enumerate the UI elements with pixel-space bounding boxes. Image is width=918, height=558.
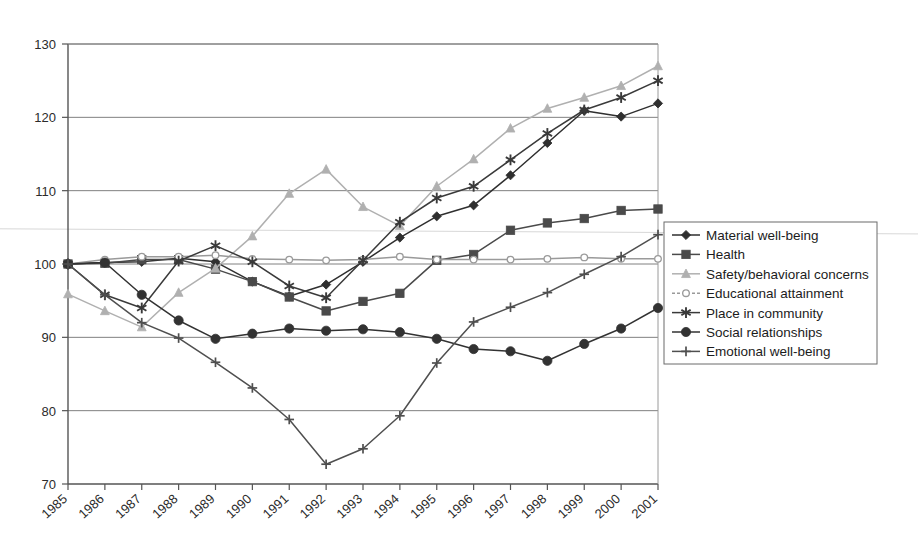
data-point-marker [507,256,514,263]
data-point-marker [248,329,257,338]
data-point-marker [322,326,331,335]
data-point-marker [323,257,330,264]
data-point-marker [655,256,662,263]
data-point-marker [580,339,589,348]
y-tick-label: 70 [42,477,56,492]
data-point-marker [359,297,367,305]
y-tick-label: 100 [34,257,56,272]
data-point-marker [396,289,404,297]
legend-item-label: Emotional well-being [706,344,831,359]
data-point-marker [248,277,256,285]
data-point-marker [506,226,514,234]
data-point-marker [681,327,690,336]
y-tick-label: 130 [34,37,56,52]
chart-svg: 708090100110120130 198519861987198819891… [0,0,918,558]
data-point-marker [432,334,441,343]
legend-item-label: Place in community [706,306,823,321]
data-point-marker [683,290,690,297]
data-point-marker [654,205,662,213]
data-point-marker [544,256,551,263]
data-point-marker [617,324,626,333]
data-point-marker [506,347,515,356]
data-point-marker [285,293,293,301]
data-point-marker [397,253,404,260]
y-tick-label: 110 [35,184,56,199]
legend-item-label: Material well-being [706,228,819,243]
y-tick-label: 120 [34,110,56,125]
line-chart: 708090100110120130 198519861987198819891… [0,0,918,558]
data-point-marker [100,258,109,267]
data-point-marker [285,324,294,333]
data-point-marker [543,356,552,365]
data-point-marker [211,334,220,343]
data-point-marker [174,316,183,325]
data-point-marker [617,206,625,214]
data-point-marker [395,328,404,337]
data-point-marker [581,254,588,261]
y-tick-label: 90 [42,330,56,345]
data-point-marker [137,290,146,299]
data-point-marker [286,256,293,263]
legend-item-label: Social relationships [706,325,823,340]
data-point-marker [543,219,551,227]
data-point-marker [470,256,477,263]
y-tick-label: 80 [42,404,56,419]
data-point-marker [322,307,330,315]
chart-legend: Material well-beingHealthSafety/behavior… [664,222,877,364]
legend-item-label: Educational attainment [706,286,844,301]
legend-item-label: Health [706,247,745,262]
data-point-marker [138,253,145,260]
data-point-marker [358,325,367,334]
legend-item-label: Safety/behavioral concerns [706,267,869,282]
data-point-marker [469,344,478,353]
data-point-marker [433,256,440,263]
data-point-marker [212,252,219,259]
data-point-marker [653,303,662,312]
data-point-marker [682,250,690,258]
data-point-marker [580,214,588,222]
